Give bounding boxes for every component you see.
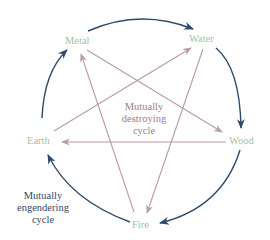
five-elements-diagram: Metal Water Wood Fire Earth Mutually des… (0, 0, 270, 240)
node-earth: Earth (27, 135, 50, 146)
node-metal: Metal (65, 35, 90, 46)
arrow-earth-to-metal (42, 50, 67, 118)
arrow-wood-to-fire (160, 150, 240, 223)
node-water: Water (189, 33, 214, 44)
destroying-cycle-caption: Mutually destroying cycle (112, 101, 176, 137)
node-fire: Fire (132, 219, 149, 230)
arrow-water-to-wood (216, 48, 241, 128)
engendering-cycle-caption: Mutually engendering cycle (10, 190, 76, 226)
node-wood: Wood (229, 135, 254, 146)
arrow-metal-to-water (88, 19, 193, 31)
